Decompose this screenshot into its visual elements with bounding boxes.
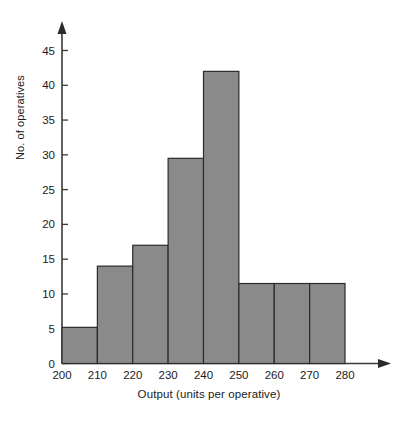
histogram-bar xyxy=(133,245,168,363)
y-tick-label: 25 xyxy=(42,184,55,196)
histogram-bar xyxy=(204,71,239,363)
x-tick-label: 220 xyxy=(123,369,142,381)
histogram-bars xyxy=(62,71,345,363)
histogram-bar xyxy=(62,327,97,363)
y-tick-label: 40 xyxy=(42,79,55,91)
y-axis-ticks: 051015202530354045 xyxy=(42,45,68,370)
histogram-bar xyxy=(168,158,203,363)
x-tick-label: 230 xyxy=(159,369,178,381)
x-tick-label: 240 xyxy=(194,369,213,381)
x-axis-title: Output (units per operative) xyxy=(0,388,418,400)
y-tick-label: 15 xyxy=(42,253,55,265)
y-tick-label: 30 xyxy=(42,149,55,161)
y-tick-label: 0 xyxy=(49,358,55,370)
y-tick-label: 5 xyxy=(49,323,55,335)
histogram-bar xyxy=(97,266,132,363)
x-tick-label: 270 xyxy=(300,369,319,381)
x-axis-ticks: 200210220230240250260270280 xyxy=(52,369,354,381)
x-tick-label: 260 xyxy=(265,369,284,381)
y-tick-label: 10 xyxy=(42,288,55,300)
y-tick-label: 45 xyxy=(42,45,55,57)
y-tick-label: 20 xyxy=(42,218,55,230)
x-tick-label: 200 xyxy=(52,369,71,381)
x-tick-label: 210 xyxy=(88,369,107,381)
histogram-plot-area: 051015202530354045 200210220230240250260… xyxy=(0,0,418,426)
y-tick-label: 35 xyxy=(42,114,55,126)
histogram-bar xyxy=(239,284,274,364)
histogram-bar xyxy=(274,284,309,364)
x-tick-label: 280 xyxy=(335,369,354,381)
x-tick-label: 250 xyxy=(229,369,248,381)
y-axis-arrow-icon xyxy=(58,21,67,34)
x-axis-arrow-icon xyxy=(378,359,391,368)
histogram-figure: No. of operatives 051015202530354045 200… xyxy=(0,0,418,426)
histogram-bar xyxy=(310,284,345,364)
